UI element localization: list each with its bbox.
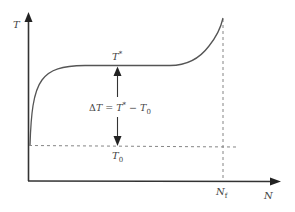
delta-rhs2-sub: 0 bbox=[146, 108, 150, 116]
x-axis-arrow-icon bbox=[270, 178, 281, 186]
y-axis-arrow-icon bbox=[25, 12, 33, 22]
x-axis-label-text: N bbox=[264, 190, 273, 201]
t-star-sup: * bbox=[119, 50, 123, 58]
temperature-curve bbox=[30, 18, 223, 145]
nf-label: Nf bbox=[216, 187, 227, 200]
y-axis-label-text: T bbox=[13, 19, 20, 30]
nf-sub: f bbox=[225, 192, 228, 200]
delta-equals: = bbox=[102, 102, 116, 113]
t0-sub: 0 bbox=[119, 156, 123, 164]
delta-t-equation: ΔT = T* − T0 bbox=[89, 102, 151, 116]
delta-minus: − bbox=[126, 102, 140, 113]
y-axis-label: T bbox=[13, 20, 20, 30]
t0-base: T bbox=[112, 150, 119, 161]
nf-base: N bbox=[216, 186, 225, 197]
t-star-label: T* bbox=[112, 51, 122, 62]
x-axis-label: N bbox=[264, 191, 273, 201]
delta-symbol: Δ bbox=[89, 102, 96, 113]
t0-dashed-line bbox=[29, 146, 236, 148]
t-star-base: T bbox=[112, 51, 119, 62]
delta-arrow-up-icon bbox=[114, 67, 122, 77]
x-axis bbox=[28, 181, 272, 182]
t0-label: T0 bbox=[112, 151, 123, 164]
delta-arrow-down-icon bbox=[114, 136, 122, 146]
